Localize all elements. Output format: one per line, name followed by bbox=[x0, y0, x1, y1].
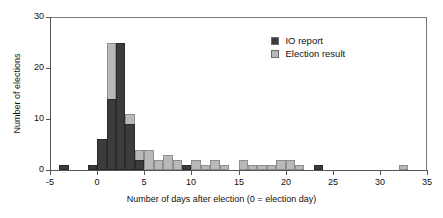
x-tick bbox=[333, 171, 334, 175]
legend-label-election-result: Election result bbox=[285, 48, 345, 59]
bar-election-result bbox=[191, 160, 200, 170]
y-axis-title: Number of elections bbox=[12, 17, 22, 170]
bar-election-result bbox=[163, 155, 172, 170]
x-tick-label: 5 bbox=[129, 177, 159, 187]
y-tick bbox=[46, 119, 50, 120]
bar-election-result bbox=[267, 165, 276, 170]
bar-election-result bbox=[276, 160, 285, 170]
bar-election-result bbox=[248, 165, 257, 170]
legend-swatch-io-report bbox=[271, 37, 279, 45]
x-tick bbox=[50, 171, 51, 175]
x-tick bbox=[239, 171, 240, 175]
bar-election-result bbox=[286, 160, 295, 170]
bar-election-result bbox=[173, 160, 182, 170]
x-tick-label: -5 bbox=[35, 177, 65, 187]
y-axis-line bbox=[50, 17, 51, 171]
y-tick bbox=[46, 68, 50, 69]
bar-io-report bbox=[125, 124, 134, 170]
x-tick-label: 15 bbox=[224, 177, 254, 187]
legend-label-io-report: IO report bbox=[285, 35, 323, 46]
bar-election-result bbox=[239, 160, 248, 170]
bar-election-result bbox=[144, 150, 153, 170]
x-tick bbox=[286, 171, 287, 175]
x-tick-label: 30 bbox=[365, 177, 395, 187]
bar-io-report bbox=[59, 165, 68, 170]
bar-election-result bbox=[210, 160, 219, 170]
bar-io-report bbox=[314, 165, 323, 170]
bar-election-result bbox=[257, 165, 266, 170]
bar-io-report bbox=[182, 165, 191, 170]
bar-io-report bbox=[88, 165, 97, 170]
x-tick-label: 0 bbox=[82, 177, 112, 187]
bar-io-report bbox=[97, 139, 106, 170]
x-tick bbox=[427, 171, 428, 175]
x-tick bbox=[380, 171, 381, 175]
legend-swatch-election-result bbox=[271, 50, 279, 58]
bar-election-result bbox=[154, 160, 163, 170]
bar-election-result bbox=[399, 165, 408, 170]
bar-election-result bbox=[201, 165, 210, 170]
y-tick bbox=[46, 17, 50, 18]
x-axis-title: Number of days after election (0 = elect… bbox=[0, 194, 443, 204]
x-tick-label: 35 bbox=[412, 177, 442, 187]
x-tick bbox=[191, 171, 192, 175]
bar-io-report bbox=[116, 43, 125, 171]
bar-io-report bbox=[107, 99, 116, 170]
bar-election-result bbox=[220, 165, 229, 170]
histogram-chart: -505101520253035 0102030 Number of days … bbox=[0, 0, 443, 218]
bar-io-report bbox=[135, 160, 144, 170]
x-tick-label: 10 bbox=[176, 177, 206, 187]
x-tick bbox=[144, 171, 145, 175]
x-tick-label: 25 bbox=[318, 177, 348, 187]
bar-election-result bbox=[295, 165, 304, 170]
x-tick-label: 20 bbox=[271, 177, 301, 187]
x-tick bbox=[97, 171, 98, 175]
